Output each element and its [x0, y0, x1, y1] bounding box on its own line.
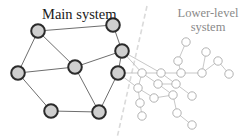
- lower-node-L9: [138, 69, 146, 77]
- lower-system-edges: [138, 42, 229, 125]
- main-node-D: [68, 60, 82, 74]
- lower-node-L5: [225, 70, 233, 78]
- lower-system-label-line2: system: [191, 20, 226, 34]
- lower-system-label-line1: Lower-level: [178, 6, 239, 20]
- lower-system-nodes: [134, 38, 233, 129]
- main-node-F: [44, 104, 58, 118]
- main-node-H: [92, 105, 106, 119]
- lower-node-L7: [177, 69, 185, 77]
- lower-node-L10: [154, 80, 162, 88]
- main-system-nodes: [11, 18, 129, 119]
- lower-node-L4: [214, 57, 222, 65]
- main-node-E: [11, 66, 25, 80]
- lower-node-L17: [138, 112, 146, 120]
- main-edge-D-E: [18, 67, 75, 73]
- lower-node-L15: [169, 91, 177, 99]
- system-diagram: Main system Lower-level system: [0, 0, 242, 138]
- lower-node-L12: [188, 92, 196, 100]
- main-node-G: [111, 66, 125, 80]
- lower-node-L8: [157, 69, 165, 77]
- lower-node-L18: [173, 109, 181, 117]
- main-node-C: [115, 44, 129, 58]
- main-system-label: Main system: [42, 6, 117, 22]
- main-node-A: [31, 24, 45, 38]
- lower-node-L16: [136, 99, 144, 107]
- lower-node-L14: [150, 94, 158, 102]
- lower-node-L19: [188, 121, 196, 129]
- lower-node-L3: [202, 48, 210, 56]
- main-edge-A-B: [38, 25, 113, 31]
- lower-node-L2: [174, 57, 182, 65]
- lower-node-L13: [134, 84, 142, 92]
- lower-node-L11: [172, 80, 180, 88]
- lower-node-L6: [198, 69, 206, 77]
- lower-node-L1: [182, 38, 190, 46]
